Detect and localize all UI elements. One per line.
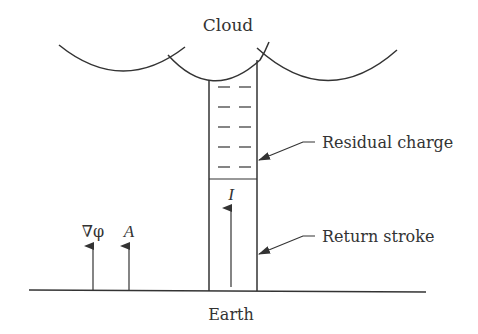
return-stroke-pointer-icon bbox=[259, 236, 315, 254]
earth-label: Earth bbox=[208, 305, 254, 324]
cloud-arc-right bbox=[257, 48, 397, 81]
cloud-arc-left bbox=[59, 45, 185, 71]
residual-charge-pointer-icon bbox=[259, 142, 315, 160]
lightning-channel bbox=[209, 60, 257, 291]
ground-line bbox=[29, 290, 426, 292]
cloud-label: Cloud bbox=[203, 15, 254, 35]
residual-charge-label: Residual charge bbox=[322, 133, 453, 152]
return-stroke-label: Return stroke bbox=[322, 227, 434, 246]
residual-charges bbox=[218, 87, 251, 167]
cloud-outline bbox=[59, 42, 397, 81]
grad-phi-label: ∇φ bbox=[82, 222, 104, 241]
lightning-diagram: Cloud I Earth ∇φ A Residual charge bbox=[0, 0, 478, 334]
current-label: I bbox=[227, 185, 235, 204]
vector-potential-label: A bbox=[123, 222, 135, 241]
